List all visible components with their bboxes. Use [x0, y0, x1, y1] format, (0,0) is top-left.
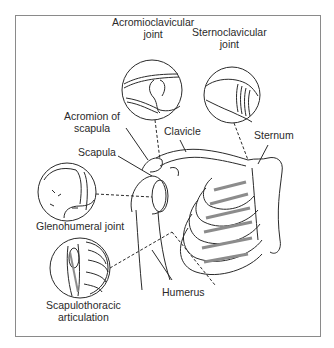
label-text: Sternoclavicular [192, 26, 267, 38]
label-text: scapula [64, 122, 120, 134]
ac-joint-inset [122, 60, 182, 120]
label-sternum: Sternum [254, 129, 294, 141]
label-clavicle: Clavicle [164, 125, 201, 137]
label-scapula: Scapula [78, 146, 116, 158]
scapulothoracic-inset [50, 238, 110, 298]
label-text: Scapulothoracic [46, 299, 121, 311]
glenohumeral-inset [38, 163, 96, 221]
label-text: joint [112, 28, 194, 40]
label-text: Acromioclavicular [112, 16, 194, 28]
label-humerus: Humerus [162, 286, 205, 298]
label-scapulothoracic-articulation: Scapulothoracic articulation [46, 299, 121, 323]
label-text: joint [192, 38, 267, 50]
label-text: articulation [46, 311, 121, 323]
label-sternoclavicular-joint: Sternoclavicular joint [192, 26, 267, 50]
label-acromion-of-scapula: Acromion of scapula [64, 110, 120, 134]
sc-joint-inset [204, 67, 260, 123]
skeleton-drawing [131, 149, 282, 290]
label-glenohumeral-joint: Glenohumeral joint [36, 220, 124, 232]
label-text: Acromion of [64, 110, 120, 122]
label-acromioclavicular-joint: Acromioclavicular joint [112, 16, 194, 40]
